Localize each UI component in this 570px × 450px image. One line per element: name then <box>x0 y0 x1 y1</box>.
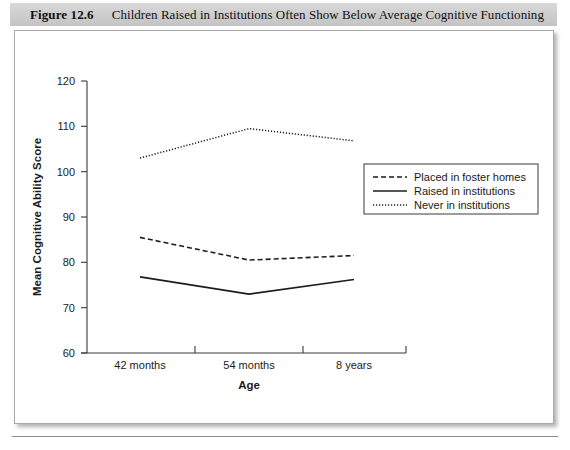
x-axis-tick-labels: 42 months 54 months 8 years <box>114 359 372 371</box>
x-axis-title: Age <box>238 379 260 391</box>
x-tick-label: 54 months <box>223 359 275 371</box>
series-line-foster <box>140 237 354 260</box>
legend-label-institutions: Raised in institutions <box>414 185 515 197</box>
y-tick-label: 110 <box>57 120 75 132</box>
figure-number: Figure 12.6 <box>30 7 94 23</box>
y-axis-title: Mean Cognitive Ability Score <box>31 138 43 296</box>
y-tick-label: 60 <box>63 347 75 359</box>
line-chart: 60 70 80 90 100 110 120 42 months 54 mon… <box>15 31 553 423</box>
figure-caption-text: Children Raised in Institutions Often Sh… <box>112 7 544 23</box>
y-axis-ticks <box>81 126 87 353</box>
series-line-institutions <box>140 277 354 294</box>
y-tick-label: 120 <box>57 75 75 87</box>
y-tick-label: 90 <box>63 211 75 223</box>
legend-label-never: Never in institutions <box>414 199 510 211</box>
figure-panel: 60 70 80 90 100 110 120 42 months 54 mon… <box>14 30 554 424</box>
figure-caption-band: Figure 12.6 Children Raised in Instituti… <box>10 3 557 26</box>
series-line-never <box>140 129 354 158</box>
x-tick-label: 42 months <box>114 359 166 371</box>
bottom-divider-rule <box>12 436 558 437</box>
y-tick-label: 80 <box>63 256 75 268</box>
y-axis-tick-labels: 60 70 80 90 100 110 120 <box>57 75 75 359</box>
series-group <box>140 129 354 294</box>
x-axis-ticks <box>195 346 303 353</box>
legend-label-foster: Placed in foster homes <box>414 171 526 183</box>
x-tick-label: 8 years <box>336 359 373 371</box>
y-tick-label: 70 <box>63 302 75 314</box>
legend[interactable]: Placed in foster homes Raised in institu… <box>364 164 538 214</box>
y-tick-label: 100 <box>57 166 75 178</box>
